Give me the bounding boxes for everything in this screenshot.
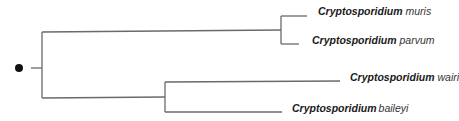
genus-name: Cryptosporidium <box>318 5 403 17</box>
taxon-label-parvum: Cryptosporidium parvum <box>312 34 435 46</box>
genus-name: Cryptosporidium <box>312 34 397 46</box>
species-name: baileyi <box>379 102 409 114</box>
genus-name: Cryptosporidium <box>292 102 377 114</box>
lower-clade-stem <box>42 97 165 98</box>
species-name: parvum <box>400 34 435 46</box>
taxon-label-wairi: Cryptosporidium wairi <box>350 71 459 83</box>
wairi-tip-branch <box>165 81 340 82</box>
genus-name: Cryptosporidium <box>350 71 435 83</box>
root-dot-icon <box>15 64 23 72</box>
upper-clade-stem <box>42 30 281 32</box>
species-name: wairi <box>438 71 459 83</box>
species-name: muris <box>406 5 432 17</box>
taxon-label-baileyi: Cryptosporidiumbaileyi <box>292 102 408 114</box>
taxon-label-muris: Cryptosporidium muris <box>318 5 431 17</box>
